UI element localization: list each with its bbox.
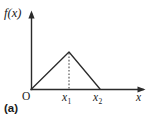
x-tick-subscript-x1: 1 xyxy=(67,97,71,106)
x-tick-label-x1: x1 xyxy=(62,92,71,104)
y-axis-label: f(x) xyxy=(4,7,21,20)
origin-label: O xyxy=(22,91,30,103)
figure-caption: (a) xyxy=(4,103,18,115)
density-curve xyxy=(32,52,101,89)
x-tick-subscript-x2: 2 xyxy=(98,97,102,106)
x-tick-label-x2: x2 xyxy=(93,92,102,104)
figure-container: f(x) O x1 x2 x (a) xyxy=(0,0,156,120)
y-axis-arrowhead xyxy=(28,11,34,19)
x-axis-label: x xyxy=(136,92,141,104)
